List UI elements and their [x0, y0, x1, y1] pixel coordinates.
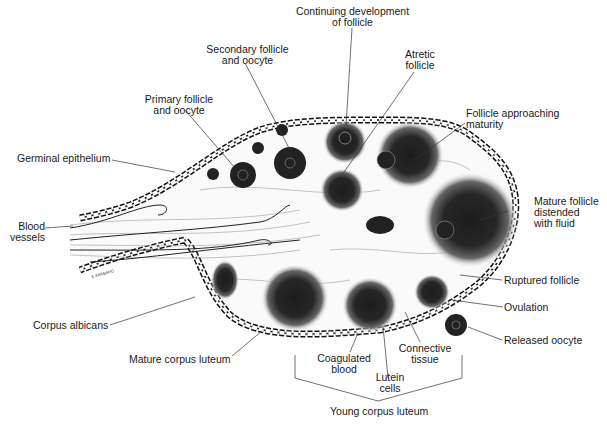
label-ovulation: Ovulation	[504, 302, 548, 313]
label-lutein-cells: Lutein cells	[370, 372, 410, 394]
corpus-albicans	[211, 260, 239, 300]
label-released-oocyte: Released oocyte	[504, 335, 582, 346]
secondary-follicle	[274, 147, 306, 179]
label-line: Mature corpus luteum	[129, 354, 231, 365]
label-line: Ovulation	[504, 302, 548, 313]
ovary-diagram: E.KASBAHO	[0, 0, 607, 426]
label-germinal-epithelium: Germinal epithelium	[17, 153, 110, 164]
label-follicle-approaching-maturity: Follicle approaching maturity	[466, 108, 559, 130]
label-continuing-development: Continuing development of follicle	[290, 6, 415, 28]
label-line: with fluid	[534, 218, 599, 229]
label-primary-follicle: Primary follicle and oocyte	[134, 94, 224, 116]
primary-follicle-small	[252, 142, 264, 154]
label-young-corpus-luteum: Young corpus luteum	[330, 406, 428, 417]
label-line: and oocyte	[134, 105, 224, 116]
ruptured-follicle	[414, 274, 450, 310]
label-mature-corpus-luteum: Mature corpus luteum	[129, 354, 231, 365]
label-line: vessels	[5, 232, 45, 243]
continuing-development-follicle	[323, 120, 367, 164]
label-line: Germinal epithelium	[17, 153, 110, 164]
label-line: of follicle	[290, 17, 415, 28]
label-corpus-albicans: Corpus albicans	[33, 320, 108, 331]
primordial-follicle	[207, 168, 219, 180]
primary-follicle	[230, 162, 256, 188]
label-line: blood	[314, 364, 374, 375]
label-line: Released oocyte	[504, 335, 582, 346]
label-line: Ruptured follicle	[504, 275, 579, 286]
label-line: Young corpus luteum	[330, 406, 428, 417]
label-mature-follicle: Mature follicle distended with fluid	[534, 196, 599, 229]
label-coagulated-blood: Coagulated blood	[314, 353, 374, 375]
label-secondary-follicle: Secondary follicle and oocyte	[195, 44, 300, 66]
label-line: follicle	[400, 60, 440, 71]
label-ruptured-follicle: Ruptured follicle	[504, 275, 579, 286]
label-atretic-follicle: Atretic follicle	[400, 49, 440, 71]
small-corpus	[366, 216, 394, 234]
artist-signature: E.KASBAHO	[91, 268, 115, 279]
young-corpus-luteum	[342, 277, 398, 333]
label-line: tissue	[395, 354, 455, 365]
released-oocyte	[445, 314, 467, 336]
mature-follicle	[422, 172, 518, 268]
label-blood-vessels: Blood vessels	[5, 221, 45, 243]
label-line: cells	[370, 383, 410, 394]
label-line: and oocyte	[195, 55, 300, 66]
label-line: maturity	[466, 119, 559, 130]
label-connective-tissue: Connective tissue	[395, 343, 455, 365]
mature-corpus-luteum	[261, 264, 329, 332]
label-line: Corpus albicans	[33, 320, 108, 331]
